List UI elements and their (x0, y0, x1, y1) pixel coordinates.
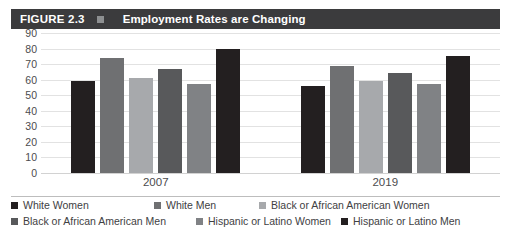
legend-label: White Men (166, 200, 216, 211)
legend-swatch-icon (259, 202, 266, 209)
plot-area: 9080706050403020100 (11, 33, 500, 173)
bar (359, 81, 383, 173)
grid-area (41, 33, 500, 173)
bar (71, 81, 95, 173)
legend-item: Black or African American Women (259, 200, 430, 211)
legend-label: Hispanic or Latino Women (208, 216, 331, 227)
y-axis-tick-label: 10 (11, 152, 37, 163)
figure-number: FIGURE 2.3 (20, 13, 85, 25)
y-axis-tick-label: 40 (11, 106, 37, 117)
legend-item: Hispanic or Latino Women (196, 216, 331, 227)
bar (129, 78, 153, 173)
y-axis-tick-label: 20 (11, 137, 37, 148)
legend-label: Black or African American Women (271, 200, 430, 211)
x-axis-category-label: 2007 (143, 176, 169, 188)
bar (417, 84, 441, 173)
legend: White WomenWhite MenBlack or African Ame… (11, 200, 500, 232)
bars-layer (41, 33, 500, 173)
y-axis-tick-label: 90 (11, 28, 37, 39)
figure-container: FIGURE 2.3 Employment Rates are Changing… (0, 0, 511, 237)
legend-divider (11, 196, 500, 197)
bar (301, 86, 325, 173)
legend-label: Black or African American Men (23, 216, 166, 227)
legend-swatch-icon (11, 202, 18, 209)
bar (216, 49, 240, 173)
legend-swatch-icon (11, 218, 18, 225)
y-axis-tick-label: 30 (11, 121, 37, 132)
legend-item: White Men (154, 200, 216, 211)
figure-title-bar: FIGURE 2.3 Employment Rates are Changing (11, 9, 500, 29)
bar (330, 66, 354, 173)
bar (446, 56, 470, 173)
y-axis-tick-label: 60 (11, 74, 37, 85)
legend-item: Hispanic or Latino Men (341, 216, 460, 227)
legend-row: Black or African American MenHispanic or… (11, 216, 500, 232)
bar (100, 58, 124, 173)
square-icon (97, 16, 104, 23)
x-axis-category-label: 2019 (372, 176, 398, 188)
legend-swatch-icon (341, 218, 348, 225)
legend-row: White WomenWhite MenBlack or African Ame… (11, 200, 500, 216)
legend-swatch-icon (196, 218, 203, 225)
legend-item: Black or African American Men (11, 216, 166, 227)
legend-label: White Women (23, 200, 89, 211)
axis-baseline (41, 173, 500, 174)
y-axis: 9080706050403020100 (11, 33, 37, 173)
y-axis-tick-label: 80 (11, 43, 37, 54)
legend-swatch-icon (154, 202, 161, 209)
bar (388, 73, 412, 173)
y-axis-tick-label: 50 (11, 90, 37, 101)
bar (187, 84, 211, 173)
y-axis-tick-label: 0 (11, 168, 37, 179)
figure-title: Employment Rates are Changing (123, 13, 306, 25)
y-axis-tick-label: 70 (11, 59, 37, 70)
legend-item: White Women (11, 200, 89, 211)
legend-label: Hispanic or Latino Men (353, 216, 460, 227)
x-axis-labels: 20072019 (41, 176, 500, 194)
bar (158, 69, 182, 173)
